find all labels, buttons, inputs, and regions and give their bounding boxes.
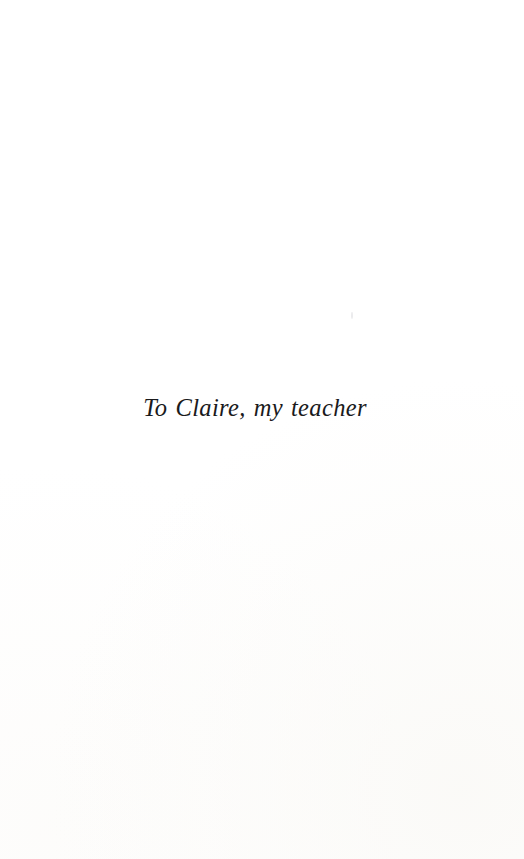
dedication-text: To Claire, my teacher [143, 393, 367, 423]
dedication-block: To Claire, my teacher [0, 393, 524, 423]
paper-tint-overlay [0, 0, 524, 859]
book-dedication-page: To Claire, my teacher [0, 0, 524, 859]
scan-speck-artifact [351, 312, 353, 319]
